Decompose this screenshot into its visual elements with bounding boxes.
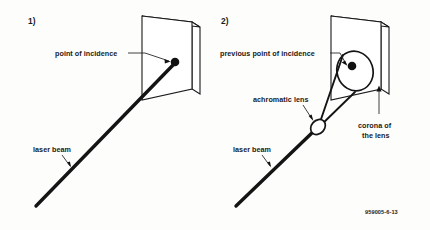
panel-1-group: point of incidence laser beam 1) (28, 16, 200, 206)
plate-right-edge (381, 22, 389, 94)
panel-2-corona-leader (376, 86, 381, 114)
panel-1-laser-beam (36, 63, 175, 206)
panel-2-corona-label-line-2: the lens (362, 131, 390, 140)
panel-2-laser-beam-label: laser beam (233, 145, 271, 154)
leader-arrowhead (67, 162, 71, 168)
panel-2-group: previous point of incidence achromatic l… (220, 16, 392, 206)
panel-1-point-of-incidence-dot (171, 58, 180, 67)
panel-1-laser-beam-leader (62, 155, 71, 168)
leader-arrowhead (267, 162, 271, 168)
panel-2-previous-point-of-incidence-dot (348, 62, 357, 71)
figure-reference-code: 959005-6-13 (365, 209, 398, 215)
diagram-canvas: point of incidence laser beam 1) (0, 0, 430, 230)
panel-1-point-of-incidence-label: point of incidence (55, 49, 117, 58)
laser-optics-diagram: point of incidence laser beam 1) (0, 0, 430, 230)
panel-2-achromatic-lens-leader (303, 105, 313, 121)
panel-1-laser-beam-label: laser beam (33, 145, 71, 154)
plate-right-edge (192, 22, 200, 94)
panel-2-achromatic-lens-label: achromatic lens (253, 95, 308, 104)
panel-1-number: 1) (28, 16, 36, 26)
panel-2-laser-beam-leader (262, 155, 271, 168)
plate-front-face (331, 16, 381, 100)
panel-2-previous-point-of-incidence-label: previous point of incidence (220, 49, 315, 58)
panel-2-laser-beam (236, 130, 315, 206)
panel-2-corona-label-line-1: corona of (358, 121, 392, 130)
panel-2-number: 2) (221, 16, 229, 26)
